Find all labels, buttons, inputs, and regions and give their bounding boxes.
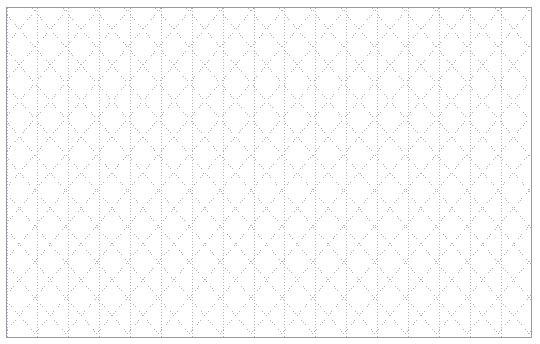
sheet-border: [6, 7, 532, 338]
grid-diagonal-left-lines: [7, 8, 531, 337]
grid-line-diagonal-left: [495, 8, 531, 337]
grid-line-diagonal-left: [7, 8, 285, 337]
grid-line-diagonal-right: [310, 8, 531, 337]
grid-diagonal-right-lines: [7, 8, 531, 337]
grid-line-diagonal-left: [433, 8, 531, 337]
grid-line-diagonal-right: [526, 8, 531, 337]
grid-line-diagonal-left: [310, 8, 531, 337]
grid-line-diagonal-right: [248, 8, 531, 337]
grid-line-diagonal-left: [279, 8, 531, 337]
grid-line-diagonal-right: [372, 8, 531, 337]
grid-line-diagonal-left: [7, 8, 100, 337]
grid-line-diagonal-left: [341, 8, 531, 337]
grid-line-diagonal-right: [7, 8, 223, 337]
grid-line-diagonal-right: [495, 8, 531, 337]
grid-line-diagonal-right: [7, 8, 285, 337]
grid-line-diagonal-left: [7, 8, 223, 337]
grid-line-diagonal-left: [7, 8, 161, 337]
grid-line-diagonal-left: [94, 8, 378, 337]
grid-line-diagonal-right: [186, 8, 470, 337]
grid-line-diagonal-right: [279, 8, 531, 337]
grid-canvas: [7, 8, 531, 337]
grid-line-diagonal-right: [7, 8, 38, 337]
grid-line-diagonal-left: [7, 8, 38, 337]
grid-line-diagonal-right: [433, 8, 531, 337]
grid-line-diagonal-right: [464, 8, 531, 337]
grid-line-diagonal-right: [341, 8, 531, 337]
grid-line-diagonal-left: [248, 8, 531, 337]
grid-line-diagonal-right: [94, 8, 378, 337]
grid-line-diagonal-left: [372, 8, 531, 337]
grid-line-diagonal-left: [402, 8, 531, 337]
page-root: [0, 0, 540, 344]
grid-line-diagonal-right: [7, 8, 161, 337]
grid-line-diagonal-left: [464, 8, 531, 337]
grid-vertical-lines: [7, 8, 531, 337]
grid-line-diagonal-right: [402, 8, 531, 337]
isometric-dot-grid: [7, 8, 531, 337]
grid-line-diagonal-left: [526, 8, 531, 337]
grid-line-diagonal-right: [7, 8, 100, 337]
grid-line-diagonal-left: [186, 8, 470, 337]
